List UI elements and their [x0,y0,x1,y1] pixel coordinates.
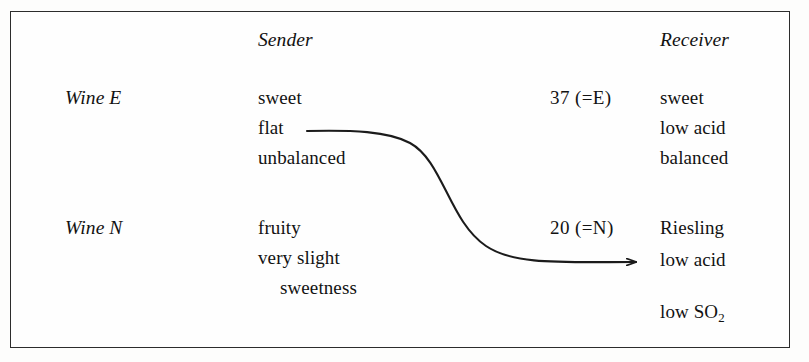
sender-line-n-3: sweetness [280,278,357,297]
sender-line-n-2: very slight [258,248,340,267]
receiver-line-e-1: sweet [660,88,704,107]
sender-line-n-1: fruity [258,218,301,237]
sender-line-e-1: sweet [258,88,302,107]
receiver-line-n-1: Riesling [660,218,724,237]
sender-line-e-3: unbalanced [258,148,346,167]
figure-frame [10,11,790,348]
receiver-line-e-2: low acid [660,118,726,137]
sender-column-header: Sender [258,30,313,50]
sender-line-e-2: flat [258,118,284,137]
code-wine-e: 37 (=E) [550,88,612,107]
row-label-wine-e: Wine E [65,88,121,108]
receiver-column-header: Receiver [660,30,729,50]
so2-text: low SO [660,301,718,322]
receiver-line-e-3: balanced [660,148,728,167]
so2-subscript: 2 [718,310,725,325]
receiver-line-n-2: low acid [660,250,726,269]
receiver-line-n-3-so2: low SO2 [660,302,725,325]
row-label-wine-n: Wine N [65,218,122,238]
wine-transfer-figure: Sender Receiver Wine E sweet flat unbala… [0,0,809,362]
code-wine-n: 20 (=N) [550,218,614,237]
